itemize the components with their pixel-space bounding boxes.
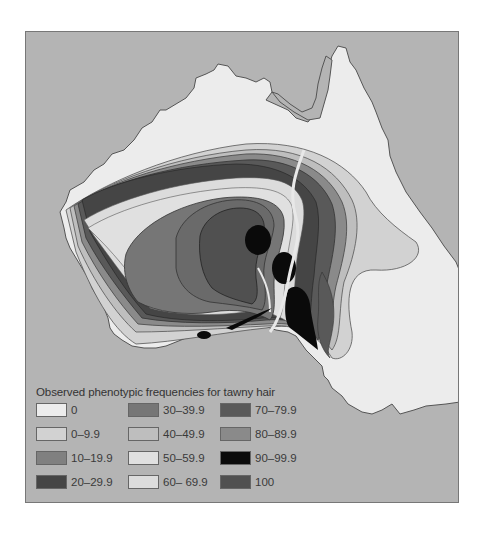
legend-item: 60– 69.9 bbox=[128, 474, 220, 489]
legend-label: 100 bbox=[255, 476, 274, 488]
legend-title: Observed phenotypic frequencies for tawn… bbox=[36, 386, 366, 398]
legend-item: 100 bbox=[220, 474, 312, 489]
legend-swatch bbox=[36, 451, 67, 465]
legend-label: 40–49.9 bbox=[163, 428, 205, 440]
legend-label: 10–19.9 bbox=[71, 452, 113, 464]
legend-swatch bbox=[36, 427, 67, 441]
legend-swatch bbox=[128, 475, 159, 489]
legend-item: 70–79.9 bbox=[220, 402, 312, 417]
legend-label: 20–29.9 bbox=[71, 476, 113, 488]
legend-item: 30–39.9 bbox=[128, 402, 220, 417]
legend-swatch bbox=[220, 427, 251, 441]
legend-item: 90–99.9 bbox=[220, 450, 312, 465]
legend-label: 30–39.9 bbox=[163, 404, 205, 416]
legend-swatch bbox=[128, 427, 159, 441]
legend-label: 0–9.9 bbox=[71, 428, 100, 440]
zone-90-99-blob-1 bbox=[245, 225, 271, 255]
legend-item: 0–9.9 bbox=[36, 426, 128, 441]
legend-swatch bbox=[220, 475, 251, 489]
legend-label: 90–99.9 bbox=[255, 452, 297, 464]
legend-label: 60– 69.9 bbox=[163, 476, 208, 488]
legend-swatch bbox=[220, 451, 251, 465]
legend-item: 40–49.9 bbox=[128, 426, 220, 441]
legend-label: 50–59.9 bbox=[163, 452, 205, 464]
legend-label: 80–89.9 bbox=[255, 428, 297, 440]
legend-item: 20–29.9 bbox=[36, 474, 128, 489]
legend-swatch bbox=[36, 475, 67, 489]
legend-swatch bbox=[220, 403, 251, 417]
legend-item: 80–89.9 bbox=[220, 426, 312, 441]
legend: Observed phenotypic frequencies for tawn… bbox=[36, 386, 366, 489]
legend-label: 0 bbox=[71, 404, 77, 416]
legend-item: 50–59.9 bbox=[128, 450, 220, 465]
legend-item: 0 bbox=[36, 402, 128, 417]
legend-swatch bbox=[128, 403, 159, 417]
legend-item: 10–19.9 bbox=[36, 450, 128, 465]
zone-90-99-small bbox=[197, 331, 211, 339]
legend-swatch bbox=[36, 403, 67, 417]
map-frame: Observed phenotypic frequencies for tawn… bbox=[25, 31, 459, 503]
legend-swatch bbox=[128, 451, 159, 465]
legend-label: 70–79.9 bbox=[255, 404, 297, 416]
legend-grid: 0 30–39.9 70–79.9 0–9.9 40–49.9 80–89.9 … bbox=[36, 402, 366, 489]
